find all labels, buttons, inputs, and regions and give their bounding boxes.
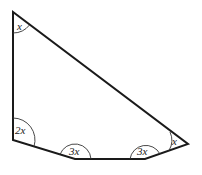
angle-label-top: x (16, 20, 22, 32)
angle-label-bottom-left: 2x (15, 124, 26, 136)
pentagon-diagram: x 2x 3x 3x x (0, 0, 202, 175)
angle-label-bottom-mid-left: 3x (68, 145, 80, 157)
pentagon-outline (13, 12, 188, 159)
angle-label-right: x (171, 135, 177, 147)
angle-label-bottom-mid-right: 3x (136, 145, 148, 157)
